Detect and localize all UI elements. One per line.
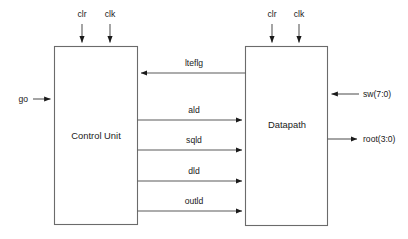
datapath-clr-label: clr [267, 9, 276, 19]
external-output-root[interactable]: root(3:0) [328, 134, 396, 144]
outld-label: outld [185, 196, 204, 206]
root-label: root(3:0) [363, 134, 396, 144]
control-unit-clr-input[interactable]: clr [77, 9, 86, 43]
block-diagram: Control Unit Datapath clr clk clr clk [0, 0, 408, 239]
signal-dld[interactable]: dld [138, 166, 243, 181]
control-unit-clr-label: clr [77, 9, 86, 19]
datapath-clk-label: clk [294, 9, 305, 19]
sw-label: sw(7:0) [363, 89, 391, 99]
datapath-clr-input[interactable]: clr [267, 9, 276, 43]
lteflg-label: lteflg [185, 58, 203, 68]
external-input-go[interactable]: go [18, 94, 50, 104]
external-input-sw[interactable]: sw(7:0) [332, 89, 392, 99]
control-unit-clk-input[interactable]: clk [105, 9, 116, 43]
block-control-unit[interactable]: Control Unit [55, 47, 138, 225]
go-label: go [18, 94, 28, 104]
signal-ald[interactable]: ald [138, 105, 243, 120]
control-unit-label: Control Unit [71, 130, 121, 141]
datapath-clk-input[interactable]: clk [294, 9, 305, 43]
datapath-label: Datapath [268, 119, 306, 130]
control-unit-clk-label: clk [105, 9, 116, 19]
signal-sqld[interactable]: sqld [138, 135, 243, 150]
ald-label: ald [188, 105, 200, 115]
dld-label: dld [188, 166, 200, 176]
signal-lteflg[interactable]: lteflg [141, 58, 246, 73]
sqld-label: sqld [186, 135, 202, 145]
diagram-canvas: Control Unit Datapath clr clk clr clk [0, 0, 408, 239]
datapath-box[interactable] [246, 47, 328, 226]
block-datapath[interactable]: Datapath [246, 47, 328, 226]
signal-outld[interactable]: outld [138, 196, 243, 211]
